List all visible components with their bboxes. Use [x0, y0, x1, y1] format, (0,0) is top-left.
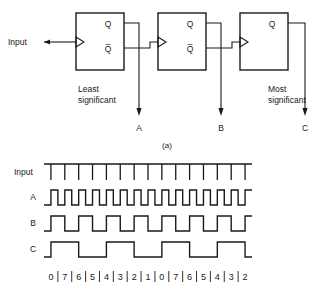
count-value: 3 — [118, 272, 123, 282]
most-significant-label-line2: significant — [268, 95, 306, 105]
input-label: Input — [8, 37, 28, 47]
count-value: 4 — [215, 272, 220, 282]
count-value: 5 — [201, 272, 206, 282]
output-a-arrowhead — [136, 108, 141, 116]
flipflop-1-q-label: Q — [105, 19, 112, 29]
count-value: 2 — [243, 272, 248, 282]
flipflop-2-clock-input-icon — [158, 37, 166, 47]
flipflop-2-qbar-to-ff3-clock-wire — [206, 42, 240, 48]
figure-caption-a: (a) — [162, 141, 172, 150]
timing-diagram-group: Input A B C 076543210765432 — [14, 164, 252, 282]
flipflop-1-clock-input-icon — [76, 37, 84, 47]
count-value: 4 — [104, 272, 109, 282]
most-significant-label-line1: Most — [268, 84, 287, 94]
count-sequence-row: 076543210765432 — [48, 271, 247, 282]
count-value: 0 — [159, 272, 164, 282]
count-value: 2 — [132, 272, 137, 282]
figure-svg: Input Q Q̅ A Least significant Q Q — [0, 0, 334, 287]
input-arrowhead — [44, 39, 50, 44]
timing-row-label-a: A — [30, 192, 36, 202]
flipflop-2-qbar-label: Q̅ — [187, 44, 194, 54]
output-c-arrowhead — [302, 108, 307, 116]
flipflop-1-q-wire — [124, 23, 139, 48]
waveform-b — [44, 216, 252, 231]
least-significant-label-line2: significant — [78, 95, 116, 105]
timing-row-label-b: B — [30, 218, 36, 228]
timing-row-label-input: Input — [14, 167, 34, 177]
flipflop-2-q-label: Q — [187, 19, 194, 29]
flipflop-3-clock-input-icon — [240, 37, 248, 47]
waveform-input — [44, 164, 252, 180]
output-b-arrowhead — [218, 108, 223, 116]
output-c-label: C — [302, 123, 308, 133]
count-value: 7 — [173, 272, 178, 282]
flipflop-1-qbar-label: Q̅ — [105, 44, 112, 54]
count-value: 7 — [62, 272, 67, 282]
count-value: 0 — [48, 272, 53, 282]
schematic-group: Input Q Q̅ A Least significant Q Q — [8, 13, 308, 150]
count-value: 3 — [229, 272, 234, 282]
count-value: 1 — [145, 272, 150, 282]
flipflop-3-q-label: Q — [269, 19, 276, 29]
count-value: 5 — [90, 272, 95, 282]
timing-row-label-c: C — [30, 244, 36, 254]
waveform-a — [44, 190, 252, 205]
output-b-label: B — [218, 123, 224, 133]
counter-figure: Input Q Q̅ A Least significant Q Q — [0, 0, 334, 287]
flipflop-2-q-wire — [206, 23, 221, 48]
flipflop-1-qbar-to-ff2-clock-wire — [124, 42, 158, 48]
waveform-c — [44, 242, 252, 257]
count-value: 6 — [187, 272, 192, 282]
count-value: 6 — [76, 272, 81, 282]
least-significant-label-line1: Least — [78, 84, 99, 94]
output-a-label: A — [136, 123, 142, 133]
